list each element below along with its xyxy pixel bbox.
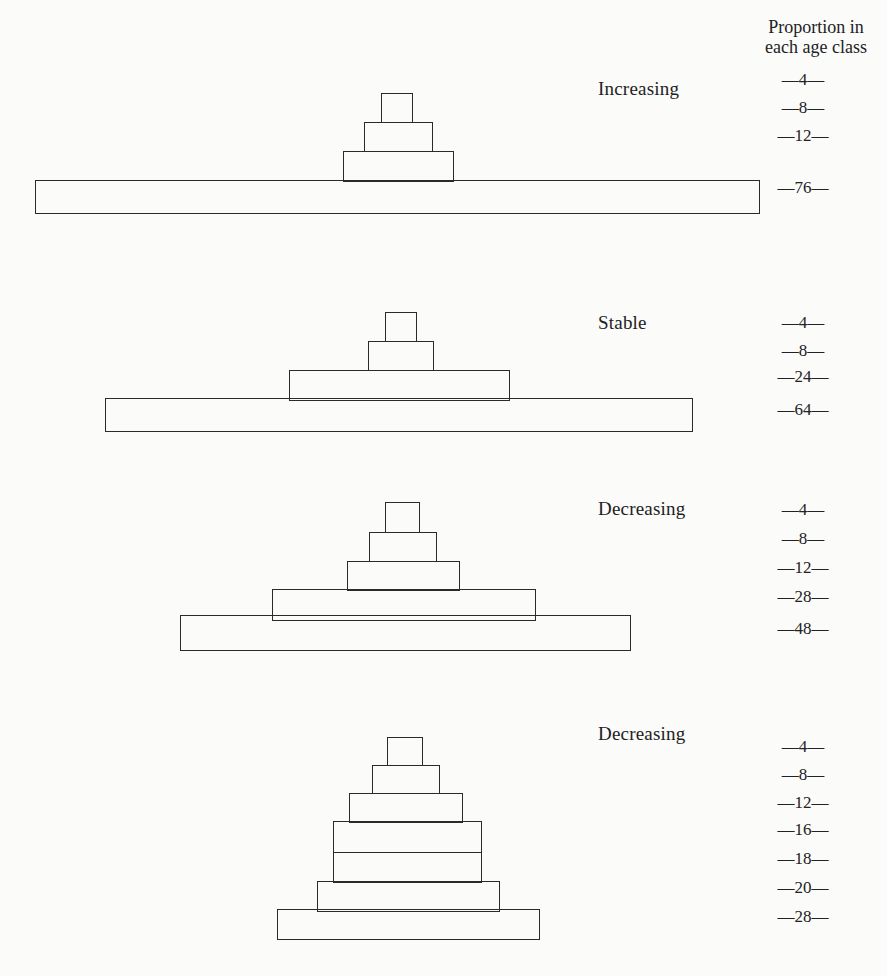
age-class-bar: [368, 341, 434, 371]
age-class-value: —8—: [768, 341, 838, 361]
header-line-2: each age class: [765, 37, 867, 57]
age-class-bar: [349, 793, 463, 823]
age-class-bar: [385, 502, 420, 533]
age-class-value: —12—: [768, 558, 838, 578]
age-class-value: —20—: [768, 878, 838, 898]
age-class-value: —4—: [768, 737, 838, 757]
age-class-value: —8—: [768, 98, 838, 118]
age-class-value: —12—: [768, 793, 838, 813]
age-class-bar: [317, 881, 500, 912]
age-class-value: —8—: [768, 765, 838, 785]
age-class-bar: [385, 312, 417, 342]
age-class-bar: [372, 765, 440, 794]
age-class-value: —16—: [768, 820, 838, 840]
age-class-value: —18—: [768, 849, 838, 869]
age-class-bar: [381, 93, 413, 123]
age-class-bar: [180, 615, 631, 651]
age-class-bar: [347, 561, 460, 591]
age-class-value: —12—: [768, 126, 838, 146]
age-class-value: —24—: [768, 367, 838, 387]
header-line-1: Proportion in: [765, 17, 867, 37]
age-class-value: —8—: [768, 529, 838, 549]
age-class-value: —76—: [768, 178, 838, 198]
age-class-value: —48—: [768, 619, 838, 639]
age-class-value: —4—: [768, 70, 838, 90]
age-class-bar: [333, 852, 482, 883]
age-class-bar: [343, 151, 454, 182]
age-class-bar: [369, 532, 437, 562]
age-class-bar: [277, 909, 540, 940]
header-proportion: Proportion in each age class: [765, 17, 867, 57]
age-class-bar: [387, 737, 423, 766]
pyramid-label: Decreasing: [598, 498, 685, 520]
pyramid-label: Decreasing: [598, 723, 685, 745]
pyramid-label: Stable: [598, 312, 647, 334]
age-class-value: —64—: [768, 400, 838, 420]
age-class-bar: [105, 398, 693, 432]
age-class-value: —4—: [768, 313, 838, 333]
age-class-bar: [289, 370, 510, 401]
age-class-bar: [35, 180, 760, 214]
pyramid-label: Increasing: [598, 78, 679, 100]
age-class-bar: [364, 122, 433, 152]
age-class-value: —28—: [768, 587, 838, 607]
age-class-bar: [333, 821, 482, 853]
age-class-value: —4—: [768, 500, 838, 520]
age-class-value: —28—: [768, 907, 838, 927]
